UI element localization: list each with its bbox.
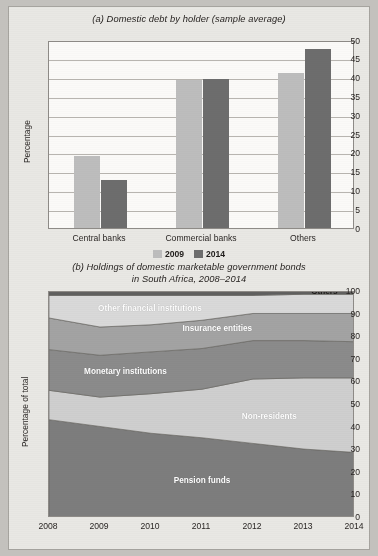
panel-a-ytick: 40 (334, 73, 360, 83)
figure-page: (a) Domestic debt by holder (sample aver… (0, 0, 378, 556)
panel-b-ytick: 90 (334, 309, 360, 319)
panel-b-ytick: 30 (334, 444, 360, 454)
panel-b-ytick: 80 (334, 331, 360, 341)
bar-2014-commercial-banks (203, 79, 229, 227)
panel-a-ytick: 20 (334, 148, 360, 158)
area-label-insurance-entities: Insurance entities (182, 324, 252, 333)
panel-b-ytick: 50 (334, 399, 360, 409)
panel-b-ytick: 40 (334, 422, 360, 432)
area-label-monetary-institutions: Monetary institutions (84, 367, 167, 376)
panel-b-xtick: 2011 (192, 521, 210, 531)
panel-a-ytick: 0 (334, 224, 360, 234)
panel-b-xtick: 2010 (140, 521, 159, 531)
area-label-other-financial-institutions: Other financial institutions (98, 303, 202, 312)
legend-item-2009: 2009 (153, 249, 184, 259)
panel-b-ytick: 60 (334, 376, 360, 386)
bar-2009-commercial-banks (176, 80, 202, 227)
panel-a-ytick: 35 (334, 92, 360, 102)
panel-b-xtick: 2009 (89, 521, 108, 531)
panel-a-title: (a) Domestic debt by holder (sample aver… (18, 14, 360, 26)
panel-b-plot-area: Pension fundsNon-residentsMonetary insti… (48, 291, 354, 517)
panel-a-legend: 20092014 (18, 249, 360, 259)
panel-a-ylabel: Percentage (22, 120, 32, 163)
panel-a-xtick: Central banks (72, 233, 125, 243)
panel-b-title: (b) Holdings of domestic marketable gove… (18, 262, 360, 285)
panel-b-ytick: 10 (334, 489, 360, 499)
panel-b-plot: Percentage of totalPension fundsNon-resi… (18, 285, 360, 539)
panel-b-area-chart: (b) Holdings of domestic marketable gove… (18, 262, 360, 544)
panel-b-xtick: 2014 (344, 521, 363, 531)
area-label-non-residents: Non-residents (242, 412, 297, 421)
panel-a-ytick: 15 (334, 167, 360, 177)
panel-a-plot: Percentage05101520253035404550Central ba… (18, 26, 360, 251)
panel-a-bar-chart: (a) Domestic debt by holder (sample aver… (18, 14, 360, 264)
panel-b-ytick: 20 (334, 467, 360, 477)
panel-a-ytick: 30 (334, 111, 360, 121)
area-label-pension-funds: Pension funds (174, 475, 230, 484)
panel-a-xtick: Commercial banks (165, 233, 236, 243)
bar-2014-others (305, 49, 331, 228)
bar-2009-others (278, 73, 304, 227)
panel-a-xtick: Others (290, 233, 316, 243)
legend-label-2009: 2009 (165, 249, 184, 259)
bar-2014-central-banks (101, 180, 127, 228)
panel-a-ytick: 50 (334, 36, 360, 46)
scanned-figure-paper: (a) Domestic debt by holder (sample aver… (8, 6, 370, 550)
panel-b-title-line1: (b) Holdings of domestic marketable gove… (18, 262, 360, 274)
legend-item-2014: 2014 (194, 249, 225, 259)
panel-b-xtick: 2008 (38, 521, 57, 531)
panel-a-ytick: 45 (334, 54, 360, 64)
legend-swatch-2014 (194, 250, 203, 258)
panel-b-ytick: 100 (334, 286, 360, 296)
panel-b-ytick: 70 (334, 354, 360, 364)
panel-a-ytick: 25 (334, 130, 360, 140)
panel-a-ytick: 5 (334, 205, 360, 215)
panel-b-xtick: 2013 (293, 521, 312, 531)
panel-b-xtick: 2012 (242, 521, 261, 531)
legend-swatch-2009 (153, 250, 162, 258)
panel-b-ylabel: Percentage of total (20, 377, 30, 447)
bar-2009-central-banks (74, 156, 100, 227)
legend-label-2014: 2014 (206, 249, 225, 259)
panel-a-plot-area (48, 41, 354, 229)
panel-b-title-line2: in South Africa, 2008–2014 (18, 274, 360, 286)
panel-a-ytick: 10 (334, 186, 360, 196)
